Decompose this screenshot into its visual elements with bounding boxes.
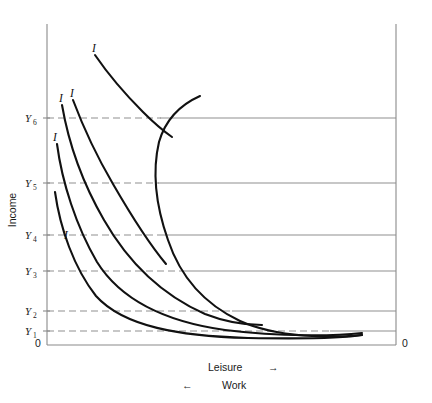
indifference-curves-group (55, 55, 362, 338)
gridlines-solid-group (158, 118, 396, 331)
axes-group (47, 24, 396, 345)
y-tick-label-6: Y 6 (25, 112, 37, 127)
work-arrow-icon: ← (182, 379, 193, 391)
svg-text:Y: Y (25, 325, 33, 337)
indifference-curve-2 (57, 144, 362, 335)
svg-text:Y: Y (25, 265, 33, 277)
indifference-label-3: I (58, 92, 64, 104)
origin-label-right: 0 (402, 337, 408, 349)
y-tick-label-4: Y 4 (25, 229, 37, 244)
origin-label-left: 0 (35, 337, 41, 349)
svg-text:5: 5 (33, 183, 37, 192)
indifference-curve-5-highest (95, 55, 172, 137)
chart-canvas: I I I I I Y 6 Y 5 Y 4 Y 3 (0, 0, 432, 403)
svg-text:Y: Y (25, 177, 33, 189)
y-axis-title: Income (6, 193, 18, 228)
x-axis-title-leisure: Leisure (208, 361, 243, 373)
x-axis-title-work: Work (222, 379, 247, 391)
svg-text:4: 4 (33, 235, 37, 244)
leisure-arrow-icon: → (268, 361, 279, 373)
y-tick-label-2: Y 2 (25, 305, 37, 320)
svg-text:2: 2 (33, 311, 37, 320)
indifference-curve-4 (73, 100, 166, 264)
svg-text:Y: Y (25, 229, 33, 241)
indifference-label-5: I (91, 42, 97, 54)
indifference-label-2: I (52, 131, 58, 143)
backward-bending-supply-curve (156, 96, 362, 337)
svg-text:3: 3 (33, 271, 37, 280)
indifference-label-4: I (69, 87, 75, 99)
y-tick-labels-group: Y 6 Y 5 Y 4 Y 3 Y 2 Y 1 (25, 112, 37, 340)
gridlines-dashed-group (47, 118, 331, 331)
indifference-label-1: I (63, 229, 69, 241)
svg-text:Y: Y (25, 112, 33, 124)
svg-text:6: 6 (33, 118, 37, 127)
y-tick-label-5: Y 5 (25, 177, 37, 192)
y-tick-label-3: Y 3 (25, 265, 37, 280)
supply-curve-group (156, 96, 362, 337)
svg-text:Y: Y (25, 305, 33, 317)
chart-figure: I I I I I Y 6 Y 5 Y 4 Y 3 (0, 0, 432, 403)
